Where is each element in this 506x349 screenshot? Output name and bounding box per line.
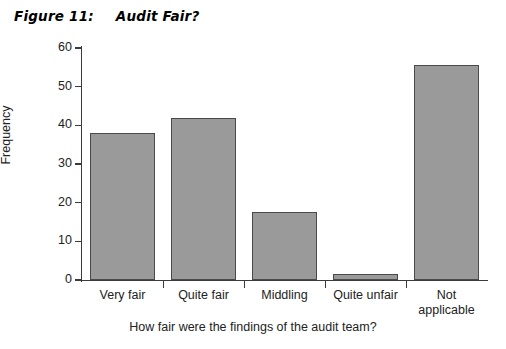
x-axis-tick (406, 281, 407, 288)
x-axis-category-label: Notapplicable (406, 288, 487, 317)
y-axis-tick (75, 86, 82, 87)
y-axis-tick-label: 60 (38, 40, 72, 54)
x-axis-tick (325, 281, 326, 288)
x-axis-tick (163, 281, 164, 288)
x-axis-category-label: Quite unfair (325, 288, 406, 303)
y-axis-tick (75, 241, 82, 242)
x-axis-line (81, 280, 488, 281)
bar-chart: 0102030405060 Very fairQuite fairMiddlin… (0, 0, 506, 349)
y-axis-tick-label: 0 (38, 272, 72, 286)
bar (90, 133, 155, 280)
y-axis-tick (75, 125, 82, 126)
plot-area (82, 48, 487, 280)
x-axis-category-label-line: Not (406, 288, 487, 303)
y-axis-title: Frequency (0, 105, 13, 164)
y-axis-tick-label: 50 (38, 79, 72, 93)
bar (171, 118, 236, 280)
x-axis-category-label: Middling (244, 288, 325, 303)
x-axis-category-label-line: Quite unfair (325, 288, 406, 303)
bar (252, 212, 317, 280)
y-axis-tick (75, 279, 82, 280)
y-axis-tick (75, 47, 82, 48)
y-axis-tick (75, 163, 82, 164)
bar (333, 274, 398, 280)
x-axis-category-label: Very fair (82, 288, 163, 303)
y-axis-tick-label: 30 (38, 156, 72, 170)
y-axis-tick (75, 202, 82, 203)
x-axis-category-label: Quite fair (163, 288, 244, 303)
y-axis-tick-label: 40 (38, 117, 72, 131)
x-axis-category-label-line: Quite fair (163, 288, 244, 303)
x-axis-title: How fair were the findings of the audit … (0, 320, 506, 334)
x-axis-category-label-line: Middling (244, 288, 325, 303)
y-axis-tick-label: 20 (38, 195, 72, 209)
x-axis-category-label-line: Very fair (82, 288, 163, 303)
y-axis-tick-label: 10 (38, 233, 72, 247)
x-axis-category-label-line: applicable (406, 303, 487, 318)
bar (414, 65, 479, 280)
x-axis-tick (244, 281, 245, 288)
